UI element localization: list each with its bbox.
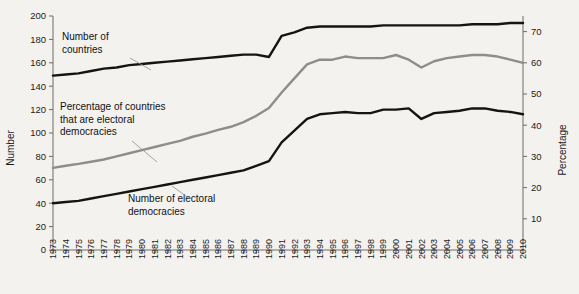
x-tick-label: 1989: [251, 239, 261, 259]
y-tick-label: 160: [30, 57, 46, 68]
annotation-text: democracies: [60, 126, 117, 137]
y-axis-right: 10203040506070: [523, 16, 542, 250]
x-tick-label: 1973: [48, 239, 58, 259]
annot-percentage: Percentage of countriesthat are electora…: [60, 101, 166, 162]
x-tick-label: 1974: [61, 239, 71, 259]
y-axis-left-title: Number: [5, 130, 16, 166]
y-tick-label: 200: [30, 10, 46, 21]
y-tick-label: 0: [41, 244, 46, 255]
annotation-text: democracies: [128, 206, 185, 217]
x-tick-label: 1983: [175, 239, 185, 259]
annotation-text: that are electoral: [60, 114, 135, 125]
x-axis: 1973197419751976197719781979198019811982…: [48, 239, 528, 259]
y-tick-label: 140: [30, 81, 46, 92]
annot-democracies: Number of electoraldemocracies: [128, 186, 215, 217]
x-tick-label: 1979: [124, 239, 134, 259]
x-tick-label: 1984: [188, 239, 198, 259]
x-tick-label: 1999: [378, 239, 388, 259]
x-tick-label: 2008: [493, 239, 503, 259]
y-tick-label: 20: [35, 221, 46, 232]
x-tick-label: 1992: [290, 239, 300, 259]
x-tick-label: 1975: [74, 239, 84, 259]
annotation-text: Number of electoral: [128, 193, 215, 204]
y2-tick-label: 70: [531, 26, 542, 37]
x-tick-label: 2000: [391, 239, 401, 259]
x-tick-label: 1997: [353, 239, 363, 259]
x-tick-label: 1988: [239, 239, 249, 259]
x-tick-label: 1998: [366, 239, 376, 259]
x-tick-label: 1994: [315, 239, 325, 259]
y2-tick-label: 10: [531, 213, 542, 224]
annotation-text: Percentage of countries: [60, 101, 166, 112]
x-tick-label: 2005: [455, 239, 465, 259]
y-tick-label: 100: [30, 127, 46, 138]
series-line: [53, 23, 523, 76]
y-axis-left: 020406080100120140160180200: [30, 10, 53, 255]
y-tick-label: 40: [35, 198, 46, 209]
x-tick-label: 2001: [404, 239, 414, 259]
x-tick-label: 1991: [277, 239, 287, 259]
x-tick-label: 1982: [163, 239, 173, 259]
y-tick-label: 80: [35, 151, 46, 162]
x-tick-label: 1993: [302, 239, 312, 259]
x-tick-label: 1990: [264, 239, 274, 259]
x-tick-label: 2009: [505, 239, 515, 259]
x-tick-label: 2004: [442, 239, 452, 259]
annotation-text: countries: [62, 44, 103, 55]
x-tick-label: 2010: [518, 239, 528, 259]
x-tick-label: 2007: [480, 239, 490, 259]
y-tick-label: 60: [35, 174, 46, 185]
y-axis-right-title: Percentage: [557, 124, 568, 176]
y2-tick-label: 50: [531, 88, 542, 99]
x-tick-label: 1976: [86, 239, 96, 259]
y2-tick-label: 30: [531, 151, 542, 162]
x-tick-label: 1995: [328, 239, 338, 259]
line-chart: 020406080100120140160180200 102030405060…: [0, 0, 579, 294]
x-tick-label: 2006: [467, 239, 477, 259]
y2-tick-label: 40: [531, 120, 542, 131]
x-tick-label: 1985: [201, 239, 211, 259]
chart-container: 020406080100120140160180200 102030405060…: [0, 0, 579, 294]
x-tick-label: 1978: [112, 239, 122, 259]
y2-tick-label: 60: [531, 57, 542, 68]
x-tick-label: 2003: [429, 239, 439, 259]
x-tick-label: 1987: [226, 239, 236, 259]
x-tick-label: 1986: [213, 239, 223, 259]
x-tick-label: 1981: [150, 239, 160, 259]
y-tick-label: 180: [30, 34, 46, 45]
annotation-text: Number of: [62, 31, 109, 42]
x-tick-label: 1996: [340, 239, 350, 259]
y-tick-label: 120: [30, 104, 46, 115]
x-tick-label: 2002: [417, 239, 427, 259]
y2-tick-label: 20: [531, 182, 542, 193]
x-tick-label: 1977: [99, 239, 109, 259]
x-tick-label: 1980: [137, 239, 147, 259]
